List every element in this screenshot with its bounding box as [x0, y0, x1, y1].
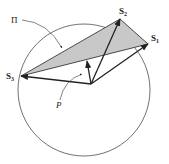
- vector-p: [87, 61, 91, 84]
- label-s3: S3: [6, 71, 14, 82]
- p-pointer-curve: [60, 74, 82, 100]
- plane-triangle: [21, 19, 148, 76]
- label-s1: S1: [151, 33, 159, 44]
- label-p: P: [55, 100, 62, 110]
- plane-pointer-curve: [22, 20, 62, 48]
- label-plane: Π: [11, 15, 18, 25]
- vector-s3: [21, 76, 91, 84]
- label-s2: S2: [119, 6, 127, 17]
- diagram-canvas: Π P S1 S2 S3: [0, 0, 169, 164]
